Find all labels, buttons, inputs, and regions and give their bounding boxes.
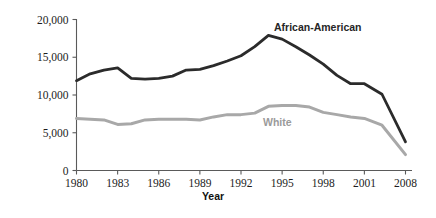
x-tick-label: 2008 <box>394 177 417 189</box>
x-tick-label: 1995 <box>271 177 294 189</box>
series-line-white <box>77 106 406 155</box>
y-tick-label: 15,000 <box>37 51 69 64</box>
x-axis-tick-labels: 198019831986198919921995199820012008 <box>65 177 417 189</box>
line-chart: 05,00010,00015,00020,000 198019831986198… <box>0 0 436 218</box>
x-tick-label: 1986 <box>147 177 170 189</box>
x-axis-ticks <box>77 171 406 175</box>
y-tick-label: 0 <box>63 165 69 177</box>
x-tick-label: 2001 <box>353 177 376 189</box>
series-label-african-american: African-American <box>274 21 362 33</box>
x-tick-label: 1983 <box>106 177 129 189</box>
y-axis-tick-labels: 05,00010,00015,00020,000 <box>37 14 69 177</box>
y-tick-label: 20,000 <box>37 14 69 27</box>
x-tick-label: 1989 <box>188 177 211 189</box>
series-line-african-american <box>77 35 406 141</box>
x-tick-label: 1998 <box>312 177 335 189</box>
x-axis-title: Year <box>202 190 224 202</box>
x-tick-label: 1980 <box>65 177 88 189</box>
y-tick-label: 10,000 <box>37 89 69 102</box>
series-label-white: White <box>263 116 292 128</box>
series-lines <box>77 35 406 154</box>
y-axis-ticks <box>73 20 77 171</box>
x-tick-label: 1992 <box>230 177 253 189</box>
y-tick-label: 5,000 <box>43 127 69 140</box>
chart-container: 05,00010,00015,00020,000 198019831986198… <box>0 0 436 218</box>
